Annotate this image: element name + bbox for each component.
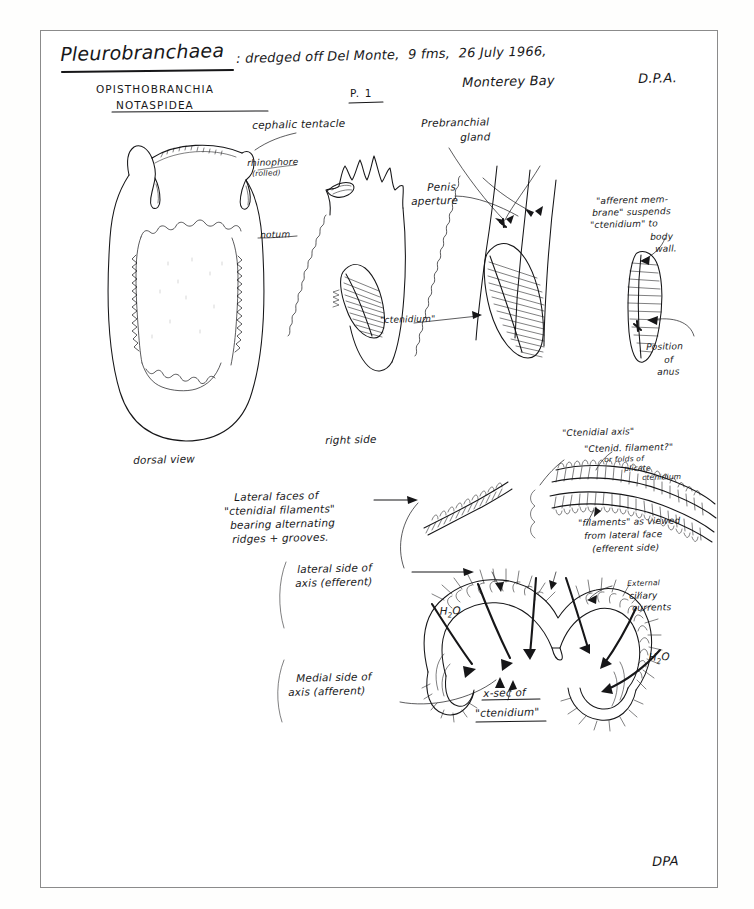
- label-medial-side-line2: axis (afferent): [288, 685, 366, 699]
- title-locality: Monterey Bay: [462, 74, 555, 91]
- label-rhinophore: rhinophore: [247, 157, 299, 168]
- note-lateral-faces-line1: Lateral faces of: [234, 490, 319, 504]
- caption-right-side: right side: [325, 434, 377, 447]
- caption-dorsal-view: dorsal view: [133, 453, 195, 466]
- label-prebranchial-gland-line1: Prebranchial: [421, 116, 490, 129]
- caption-xsec-line2: "ctenidium": [475, 706, 540, 719]
- taxon-order: NOTASPIDEA: [116, 100, 194, 112]
- label-lateral-side-line2: axis (efferent): [295, 576, 373, 590]
- note-lateral-faces-line4: ridges + grooves.: [232, 532, 329, 546]
- notebook-page: Pleurobranchaea : dredged off Del Monte,…: [0, 0, 754, 909]
- title-initials: D.P.A.: [638, 71, 677, 86]
- label-medial-side-line1: Medial side of: [296, 671, 372, 685]
- caption-filaments-line2: from lateral face: [584, 529, 662, 541]
- label-position-anus-line3: anus: [657, 366, 680, 377]
- note-afferent-line1: "afferent mem-: [596, 194, 668, 206]
- label-position-anus-line1: Position: [646, 341, 683, 352]
- label-prebranchial-gland-line2: gland: [460, 131, 491, 143]
- title-specimen: Pleurobranchaea: [60, 40, 224, 65]
- note-afferent-line5: wall.: [655, 243, 677, 254]
- label-external-ciliary-line2: ciliary: [629, 590, 658, 601]
- label-external-ciliary-line3: currents: [632, 602, 671, 613]
- note-afferent-line4: body: [650, 231, 673, 242]
- taxon-class: OPISTHOBRANCHIA: [96, 84, 214, 96]
- label-penis-aperture-line1: Penis: [427, 181, 456, 193]
- water-o: O: [452, 604, 461, 616]
- label-water-right: H2O: [634, 639, 670, 678]
- caption-filaments-line3: (efferent side): [592, 542, 659, 554]
- label-ctenidium: "ctenidium": [380, 314, 436, 325]
- page-number: P. 1: [350, 88, 372, 100]
- label-ctenidial-axis: "Ctenidial axis": [562, 426, 634, 438]
- label-water-left: H2O: [425, 593, 461, 632]
- footer-signature: DPA: [652, 854, 679, 869]
- note-afferent-line3: "ctenidium" to: [590, 218, 658, 230]
- caption-xsec-line1: x-sec of: [483, 687, 526, 700]
- label-position-anus-line2: of: [664, 355, 673, 365]
- label-rhinophore-note: (rolled): [252, 169, 281, 178]
- label-lateral-side-line1: lateral side of: [297, 562, 372, 576]
- label-folds-line3: ctenidium: [642, 473, 681, 482]
- label-notum: notum: [260, 229, 290, 240]
- water-o-right: O: [661, 650, 670, 662]
- label-penis-aperture-line2: aperture: [411, 195, 458, 208]
- label-external-ciliary-line1: External: [627, 579, 660, 588]
- label-cephalic-tentacle: cephalic tentacle: [252, 118, 346, 132]
- note-afferent-line2: brane" suspends: [592, 206, 671, 218]
